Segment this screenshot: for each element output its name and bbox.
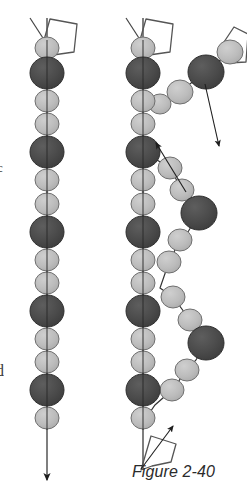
bead-dark — [181, 196, 217, 230]
bead-dark — [188, 55, 224, 89]
bead-light — [157, 251, 181, 273]
bead-light — [158, 157, 182, 179]
bead-light — [175, 359, 199, 381]
bead-light — [161, 286, 185, 308]
bead-dark — [188, 326, 224, 360]
bead-light — [167, 80, 193, 104]
bead-light — [217, 40, 243, 64]
figure-container: Figure 2-40 c d — [0, 0, 247, 493]
bead-light — [160, 379, 184, 401]
figure-illustration — [0, 0, 247, 493]
bead-light — [168, 229, 192, 251]
